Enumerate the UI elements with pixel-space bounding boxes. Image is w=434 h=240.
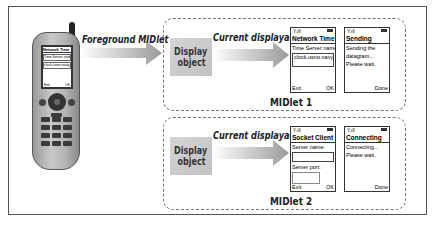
midlet-1-label: MIDlet 1 (270, 96, 312, 109)
foreground-midlet-label: Foreground MIDlet (82, 34, 168, 45)
soft-key-right: Done (375, 184, 388, 190)
screen-line: Time Server name: (291, 44, 335, 52)
battery-icon (381, 29, 387, 32)
screen-title: Connecting (345, 134, 389, 143)
screen-line: Server port: (291, 163, 335, 171)
keypad (41, 117, 73, 146)
display-object-label: Display (174, 46, 207, 57)
screen-title: Socket Client (291, 134, 335, 143)
dpad-icon (48, 93, 66, 111)
screen-line: Please wait. (345, 60, 389, 68)
display-object-1: Display object (170, 38, 212, 76)
soft-key-right: OK (326, 85, 334, 91)
display-object-label: Display (174, 145, 207, 156)
battery-icon (327, 128, 333, 131)
screen-line: datagram... (345, 52, 389, 60)
screen-line: Server name: (291, 143, 335, 151)
screen-title: Sending (345, 35, 389, 44)
signal-icon: Y.ıll (347, 28, 355, 34)
screen-network-time: Y.ıll Network Time Time Server name: clo… (290, 27, 336, 93)
display-object-label: object (177, 57, 205, 68)
mobile-phone: Network Time Time Server name: clock.usn… (32, 22, 80, 172)
signal-icon: Y.ıll (293, 127, 301, 133)
phone-soft-left: Exit (44, 83, 50, 87)
phone-screen-title: Network Time (43, 47, 71, 53)
text-field: clock.usno.navy.mil (292, 53, 334, 67)
battery-icon (381, 128, 387, 131)
current-displayable-arrow-icon (213, 140, 289, 166)
soft-key-right: Done (375, 85, 388, 91)
left-softkey (39, 99, 46, 106)
current-displayable-arrow-icon (213, 42, 289, 68)
phone-screen: Network Time Time Server name: clock.usn… (41, 45, 73, 89)
soft-key-right: OK (326, 184, 334, 190)
server-port-field (292, 172, 320, 184)
soft-key-left: Exit (292, 184, 301, 190)
screen-connecting: Y.ıll Connecting Connecting... Please wa… (344, 126, 390, 192)
phone-screen-line: Time Server name: (43, 54, 71, 61)
signal-icon: Y.ıll (293, 28, 301, 34)
right-softkey (68, 99, 75, 106)
server-name-field (292, 152, 334, 162)
phone-screen-line: clock.usno.navy.mil (43, 62, 71, 69)
screen-sending: Y.ıll Sending Sending the datagram... Pl… (344, 27, 390, 93)
soft-key-left: Exit (292, 85, 301, 91)
screen-line: Sending the (345, 44, 389, 52)
screen-line: Please wait. (345, 151, 389, 159)
signal-icon: Y.ıll (347, 127, 355, 133)
screen-socket-client: Y.ıll Socket Client Server name: Server … (290, 126, 336, 192)
phone-soft-right: OK (65, 83, 70, 87)
screen-title: Network Time (291, 35, 335, 44)
display-object-label: object (177, 156, 205, 167)
phone-body: Network Time Time Server name: clock.usn… (32, 32, 80, 170)
battery-icon (327, 29, 333, 32)
screen-line: Connecting... (345, 143, 389, 151)
display-object-2: Display object (170, 137, 212, 175)
midlet-2-label: MIDlet 2 (270, 195, 312, 208)
